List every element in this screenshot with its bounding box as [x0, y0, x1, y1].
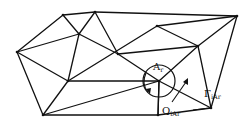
mesh-vertex — [197, 45, 200, 48]
mesh-edge — [17, 52, 68, 81]
mesh-vertex — [42, 114, 45, 117]
mesh-edge — [17, 52, 43, 115]
flux-arrowhead-icon — [183, 78, 188, 85]
mesh-edge — [17, 15, 63, 52]
mesh-vertex — [117, 53, 120, 56]
mesh-edge — [68, 34, 79, 81]
mesh-edge — [63, 12, 95, 15]
mesh-vertex — [156, 25, 159, 28]
mesh-vertex — [62, 14, 65, 17]
mesh-edge — [17, 34, 79, 52]
mesh-vertex — [210, 107, 213, 110]
mesh-vertex — [236, 15, 239, 18]
mesh-edge — [79, 12, 95, 34]
area-label: Ar — [153, 57, 163, 74]
mesh-edge — [159, 46, 198, 81]
mesh-edge — [95, 12, 237, 16]
mesh-edge — [63, 15, 79, 34]
mesh-edge — [43, 81, 68, 115]
mesh-edge — [157, 26, 198, 46]
mesh-vertex — [16, 51, 19, 54]
center-drop-line — [158, 81, 159, 115]
gamma-flux-label: ΓiAr — [204, 84, 221, 101]
mesh-vertex — [94, 11, 97, 14]
mesh-edge — [68, 26, 157, 81]
q-flux-label: QiAr — [162, 101, 180, 118]
mesh-diagram — [0, 0, 252, 126]
mesh-edge — [43, 81, 159, 115]
mesh-vertex — [78, 33, 81, 36]
mesh-edge — [118, 46, 198, 54]
mesh-vertex — [67, 80, 70, 83]
